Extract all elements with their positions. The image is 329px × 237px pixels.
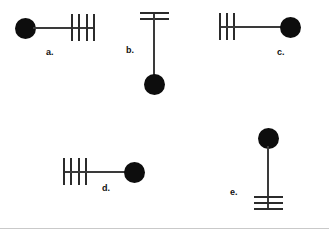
figure-e-tick-1 [254,196,283,198]
figure-c: c. [205,0,329,70]
figure-b-label: b. [126,46,134,55]
figure-e-stem [267,146,269,209]
figure-b-dot [144,74,165,95]
figure-d: d. [50,148,175,218]
figure-sheet: a. b. c. d. e. [0,0,329,237]
figure-c-label: c. [277,48,285,57]
figure-e-tick-3 [254,208,283,210]
figure-b-stem [153,14,155,78]
figure-c-stem [221,26,285,28]
figure-a-tick-2 [78,14,80,41]
figure-e: e. [228,120,329,220]
figure-a-tick-3 [86,14,88,41]
figure-c-dot [280,17,301,38]
figure-e-tick-2 [254,202,283,204]
bottom-divider [0,228,329,229]
figure-d-dot [124,162,145,183]
figure-a-label: a. [46,48,54,57]
figure-e-label: e. [230,188,238,197]
figure-b: b. [112,0,197,105]
figure-a-tick-4 [93,14,95,41]
figure-d-stem [65,171,128,173]
figure-d-label: d. [102,184,110,193]
figure-a: a. [0,0,120,70]
figure-a-tick-1 [71,14,73,41]
